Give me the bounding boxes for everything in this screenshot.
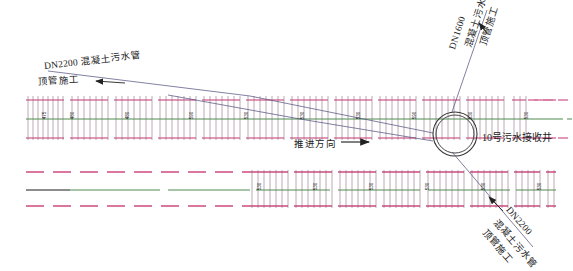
dimension-text: 530 bbox=[356, 112, 361, 120]
dimension-text: 530 bbox=[257, 183, 262, 191]
dimension-text: 530 bbox=[244, 112, 249, 120]
dimension-text: 530 bbox=[313, 183, 318, 191]
dimension-text: 530 bbox=[468, 112, 473, 120]
dimension-text: 530 bbox=[425, 183, 430, 191]
dimension-text: 480 bbox=[70, 112, 75, 120]
dimension-text: 530 bbox=[300, 112, 305, 120]
dimension-text: 530 bbox=[524, 112, 529, 120]
lower-band-ribs bbox=[252, 170, 554, 208]
leader-arrow-left-label bbox=[96, 81, 125, 83]
label-left-construction-method: 顶管施工 bbox=[38, 72, 79, 88]
dimension-text: 590 bbox=[189, 112, 194, 120]
lower-band-dashed-casing bbox=[26, 172, 250, 206]
dimension-text: 480 bbox=[125, 112, 130, 120]
dimension-text: 530 bbox=[369, 183, 374, 191]
label-receiving-well: 10号污水接收井 bbox=[482, 129, 552, 144]
upper-band-ribs bbox=[28, 96, 526, 140]
leader-line-left-label bbox=[48, 71, 433, 133]
dimension-text: 475 bbox=[42, 112, 47, 120]
dimension-text: 590 bbox=[412, 112, 417, 120]
dimension-text: 530 bbox=[537, 183, 542, 191]
label-advance-direction: 推进方向 bbox=[294, 136, 336, 150]
dimension-text: 530 bbox=[481, 183, 486, 191]
